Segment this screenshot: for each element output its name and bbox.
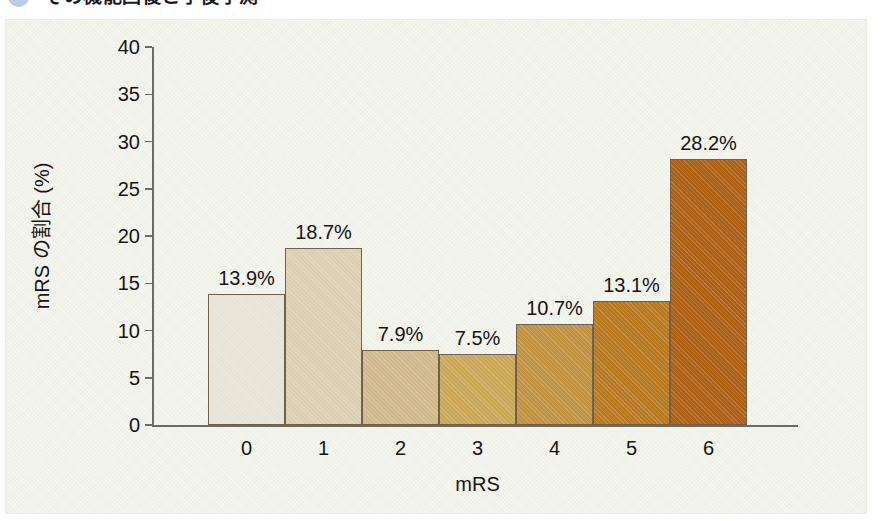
y-axis-tick-label: 35 — [118, 83, 140, 106]
y-axis-tick-label: 40 — [118, 36, 140, 59]
bar[interactable]: 10.7% — [516, 324, 593, 425]
y-axis-title: mRS の割合 (%) — [26, 163, 55, 310]
bar[interactable]: 13.1% — [593, 301, 670, 425]
y-axis-tick-label: 15 — [118, 272, 140, 295]
x-axis-tick-label: 3 — [472, 437, 483, 460]
x-axis-tick-label: 6 — [703, 437, 714, 460]
x-axis-tick-label: 0 — [241, 437, 252, 460]
plot-area: 0510152025303540 mRS の割合 (%) 13.9%018.7%… — [152, 47, 782, 425]
y-axis-tick — [145, 424, 152, 426]
y-axis-tick — [145, 330, 152, 332]
x-axis-tick-label: 2 — [395, 437, 406, 460]
bar-value-label: 13.9% — [218, 267, 275, 290]
y-axis-tick — [145, 46, 152, 48]
bar-value-label: 7.5% — [455, 327, 501, 350]
bar-value-label: 13.1% — [603, 274, 660, 297]
y-axis-tick-label: 25 — [118, 177, 140, 200]
y-axis-tick-label: 30 — [118, 130, 140, 153]
bar[interactable]: 7.9% — [362, 350, 439, 425]
y-axis-tick — [145, 283, 152, 285]
blue-circle-badge-icon — [8, 0, 29, 7]
y-axis-tick-label: 0 — [129, 414, 140, 437]
bar[interactable]: 13.9% — [208, 294, 285, 425]
x-axis-tick-label: 1 — [318, 437, 329, 460]
bar[interactable]: 18.7% — [285, 248, 362, 425]
y-axis-line — [152, 47, 154, 425]
bar-value-label: 7.9% — [378, 323, 424, 346]
y-axis-tick — [145, 94, 152, 96]
page-title: その機能回復と予後予測 — [44, 0, 259, 8]
page-header-strip: その機能回復と予後予測 — [0, 0, 885, 20]
y-axis-tick-label: 5 — [129, 366, 140, 389]
y-axis-tick — [145, 141, 152, 143]
x-axis-tick-label: 4 — [549, 437, 560, 460]
bar[interactable]: 7.5% — [439, 354, 516, 425]
bar[interactable]: 28.2% — [670, 159, 747, 425]
y-axis-tick — [145, 377, 152, 379]
y-axis-tick-label: 20 — [118, 225, 140, 248]
bar-value-label: 18.7% — [295, 221, 352, 244]
y-axis-tick-label: 10 — [118, 319, 140, 342]
bar-value-label: 10.7% — [526, 297, 583, 320]
x-axis-title: mRS — [455, 473, 499, 496]
y-axis-tick — [145, 188, 152, 190]
y-axis-tick — [145, 235, 152, 237]
chart-panel: 0510152025303540 mRS の割合 (%) 13.9%018.7%… — [6, 20, 866, 513]
x-axis-tick-label: 5 — [626, 437, 637, 460]
bar-value-label: 28.2% — [680, 132, 737, 155]
x-axis-line — [152, 425, 798, 427]
